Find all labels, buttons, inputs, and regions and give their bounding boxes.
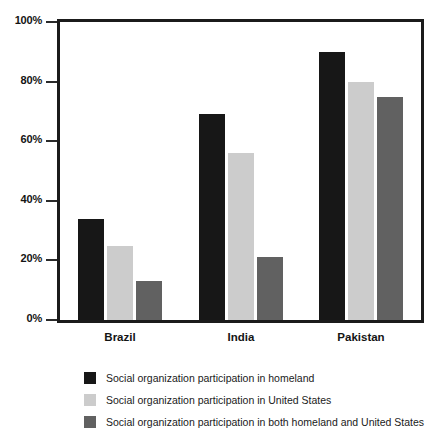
y-axis-tick-label: 40% (21, 193, 42, 205)
legend-item: Social organization participation in hom… (84, 370, 314, 386)
bar (228, 153, 254, 320)
bar (78, 219, 104, 320)
plot-area (57, 19, 424, 323)
y-axis-tick-label: 0% (27, 312, 43, 324)
plot-inner-surface (60, 22, 421, 320)
x-axis-label-india: India (199, 331, 283, 343)
bar (107, 246, 133, 321)
bar (377, 97, 403, 321)
bar (136, 281, 162, 320)
y-axis-tick-label: 80% (21, 74, 42, 86)
x-axis-label-brazil: Brazil (78, 331, 162, 343)
y-axis-tick-mark (46, 319, 57, 321)
bar-group-india (199, 22, 283, 320)
bar (199, 114, 225, 320)
legend-item: Social organization participation in Uni… (84, 392, 331, 408)
bar (348, 82, 374, 320)
legend-item: Social organization participation in bot… (84, 414, 424, 430)
bar-chart-figure: 0%20%40%60%80%100% BrazilIndiaPakistan (0, 0, 434, 360)
y-axis-tick-label: 60% (21, 133, 42, 145)
y-axis-tick-label: 100% (15, 14, 42, 26)
bar (319, 52, 345, 320)
legend-label: Social organization participation in bot… (106, 416, 424, 429)
x-axis-label-pakistan: Pakistan (319, 331, 403, 343)
bar (257, 257, 283, 320)
bar-group-brazil (78, 22, 162, 320)
legend-label: Social organization participation in hom… (106, 372, 314, 385)
chart-legend: Social organization participation in hom… (0, 370, 434, 438)
legend-swatch-icon (84, 394, 96, 406)
y-axis-tick-mark (46, 21, 57, 23)
bar-group-pakistan (319, 22, 403, 320)
y-axis-tick-mark (46, 81, 57, 83)
y-axis-tick-label: 20% (21, 252, 42, 264)
legend-swatch-icon (84, 416, 96, 428)
legend-swatch-icon (84, 372, 96, 384)
y-axis-tick-mark (46, 140, 57, 142)
y-axis-tick-mark (46, 259, 57, 261)
y-axis-tick-mark (46, 200, 57, 202)
legend-label: Social organization participation in Uni… (106, 394, 331, 407)
